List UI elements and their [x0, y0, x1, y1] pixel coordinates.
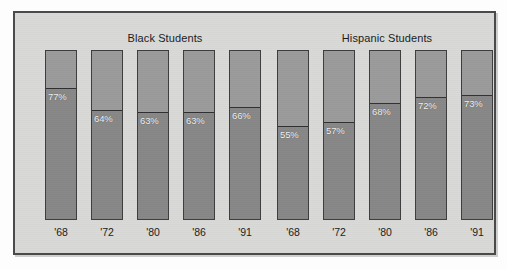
bar[interactable]: 63% — [183, 50, 215, 220]
bar-value-label: 77% — [48, 91, 67, 102]
bar[interactable]: 57% — [323, 50, 355, 220]
bar-lower-segment — [416, 97, 446, 219]
bar-slot: 57% '72 — [323, 50, 355, 246]
bar-value-label: 64% — [94, 113, 113, 124]
bar-x-label: '86 — [179, 226, 219, 238]
chart-figure: Black Students Hispanic Students 77% '68… — [0, 0, 507, 269]
bar-slot: 63% '86 — [183, 50, 215, 246]
bar-x-label: '80 — [365, 226, 405, 238]
bar-group-hispanic-students: 55% '68 57% '72 68% '80 — [263, 50, 489, 246]
bar[interactable]: 73% — [461, 50, 493, 220]
bar[interactable]: 77% — [45, 50, 77, 220]
bar-x-label: '72 — [319, 226, 359, 238]
bar[interactable]: 63% — [137, 50, 169, 220]
bar-slot: 63% '80 — [137, 50, 169, 246]
bar-lower-segment — [184, 112, 214, 219]
bar-value-label: 55% — [280, 129, 299, 140]
bar-slot: 55% '68 — [277, 50, 309, 246]
bar-value-label: 63% — [140, 115, 159, 126]
bar-slot: 64% '72 — [91, 50, 123, 246]
bar[interactable]: 68% — [369, 50, 401, 220]
bar-x-label: '68 — [273, 226, 313, 238]
bar-slot: 66% '91 — [229, 50, 261, 246]
bar-lower-segment — [92, 110, 122, 219]
bar[interactable]: 72% — [415, 50, 447, 220]
bar-lower-segment — [278, 126, 308, 220]
bar-x-label: '91 — [457, 226, 497, 238]
bar-value-label: 73% — [464, 98, 483, 109]
bar-group-black-students: 77% '68 64% '72 63% '80 — [29, 50, 255, 246]
bar-lower-segment — [230, 107, 260, 219]
bar-slot: 72% '86 — [415, 50, 447, 246]
bar-x-label: '80 — [133, 226, 173, 238]
bar-x-label: '86 — [411, 226, 451, 238]
chart-panel: Black Students Hispanic Students 77% '68… — [13, 11, 496, 255]
bar-slot: 68% '80 — [369, 50, 401, 246]
group-title-hispanic-students: Hispanic Students — [287, 32, 487, 44]
bar-lower-segment — [462, 95, 492, 219]
bar-value-label: 68% — [372, 106, 391, 117]
bar-x-label: '91 — [225, 226, 265, 238]
bar-value-label: 63% — [186, 115, 205, 126]
bar-slot: 77% '68 — [45, 50, 77, 246]
bar-lower-segment — [370, 103, 400, 219]
bar-lower-segment — [46, 88, 76, 219]
bar[interactable]: 55% — [277, 50, 309, 220]
bar-slot: 73% '91 — [461, 50, 493, 246]
bar[interactable]: 64% — [91, 50, 123, 220]
bar-value-label: 66% — [232, 110, 251, 121]
bar[interactable]: 66% — [229, 50, 261, 220]
bar-x-label: '68 — [41, 226, 81, 238]
bar-lower-segment — [138, 112, 168, 219]
bar-x-label: '72 — [87, 226, 127, 238]
bar-value-label: 72% — [418, 100, 437, 111]
bar-lower-segment — [324, 122, 354, 219]
group-title-black-students: Black Students — [65, 32, 265, 44]
bar-value-label: 57% — [326, 125, 345, 136]
